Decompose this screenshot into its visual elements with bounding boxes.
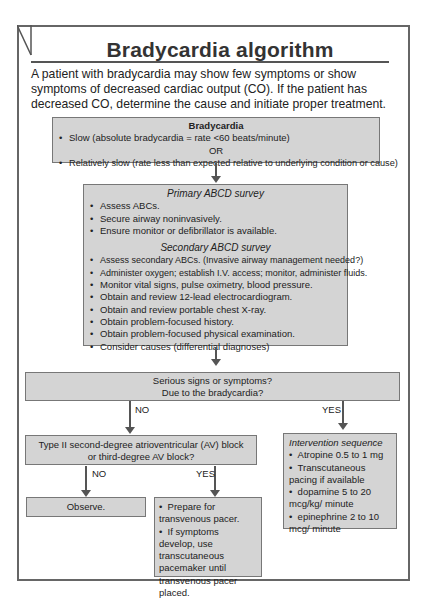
av-block-line2: or third-degree AV block? (28, 451, 254, 463)
arrow-down-icon (85, 466, 87, 491)
bullet-icon: • (289, 462, 298, 473)
no-label: NO (135, 404, 149, 415)
serious-line1: Serious signs or symptoms? (28, 375, 397, 387)
primary-survey-heading: Primary ABCD survey (90, 188, 341, 200)
bradycardia-item-slow: Slow (absolute bradycardia = rate <60 be… (59, 132, 373, 144)
intervention-item: • Atropine 0.5 to 1 mg (289, 449, 391, 461)
intervention-item: • epinephrine 2 to 10 mcg/ minute (289, 511, 391, 536)
arrow-down-icon (215, 347, 217, 360)
no-label: NO (92, 468, 106, 479)
intervention-heading: Intervention sequence (289, 437, 391, 449)
primary-item: Secure airway noninvasively. (90, 213, 341, 225)
primary-item: Ensure monitor or defibrillator is avail… (90, 225, 341, 237)
bradycardia-box: Bradycardia Slow (absolute bradycardia =… (52, 117, 380, 163)
bullet-icon: • (159, 526, 168, 537)
secondary-item: Obtain and review 12-lead electrocardiog… (90, 291, 341, 303)
intro-text: A patient with bradycardia may show few … (31, 67, 396, 112)
observe-text: Observe. (30, 501, 142, 513)
serious-line2: Due to the bradycardia? (28, 387, 397, 399)
arrow-down-icon (215, 163, 217, 177)
secondary-item: Administer oxygen; establish I.V. access… (90, 267, 341, 279)
intervention-item: • Transcutaneous pacing if available (289, 462, 391, 487)
bradycardia-or: OR (59, 145, 373, 157)
bullet-icon: • (289, 486, 298, 497)
pacer-item: • Prepare for transvenous pacer. (159, 501, 257, 526)
yes-label: YES (196, 468, 215, 479)
arrow-down-icon (342, 401, 344, 424)
secondary-item: Assess secondary ABCs. (Invasive airway … (90, 254, 341, 266)
frame-left-edge (17, 25, 19, 581)
transvenous-pacer-box: • Prepare for transvenous pacer. • If sy… (154, 497, 262, 577)
arrow-down-icon (129, 401, 131, 428)
bullet-icon: • (159, 501, 168, 512)
bullet-icon: • (289, 511, 298, 522)
abcd-survey-box: Primary ABCD survey Assess ABCs. Secure … (83, 184, 348, 346)
secondary-item: Monitor vital signs, pulse oximetry, blo… (90, 279, 341, 291)
observe-box: Observe. (26, 497, 146, 517)
serious-signs-box: Serious signs or symptoms? Due to the br… (25, 372, 400, 401)
primary-item: Assess ABCs. (90, 200, 341, 212)
intervention-item: • dopamine 5 to 20 mcg/kg/ minute (289, 486, 391, 511)
yes-label: YES (322, 404, 341, 415)
av-block-line1: Type II second-degree atrioventricular (… (28, 439, 254, 451)
secondary-item: Obtain problem-focused physical examinat… (90, 328, 341, 340)
diagram-title: Bradycardia algorithm (30, 38, 410, 62)
title-divider (31, 61, 389, 63)
pacer-item: • If symptoms develop, use transcutaneou… (159, 526, 257, 600)
intervention-sequence-box: Intervention sequence • Atropine 0.5 to … (283, 433, 397, 529)
secondary-item: Obtain and review portable chest X-ray. (90, 304, 341, 316)
bradycardia-heading: Bradycardia (59, 120, 373, 132)
secondary-survey-heading: Secondary ABCD survey (90, 242, 341, 254)
bullet-icon: • (289, 449, 298, 460)
av-block-box: Type II second-degree atrioventricular (… (25, 435, 257, 465)
secondary-item: Obtain problem-focused history. (90, 316, 341, 328)
